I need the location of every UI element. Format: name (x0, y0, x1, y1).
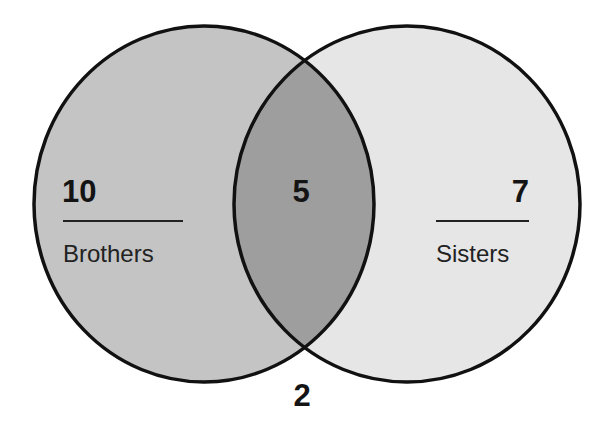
brothers-only-count: 10 (62, 174, 96, 209)
sisters-label: Sisters (436, 240, 509, 267)
outside-count: 2 (293, 378, 310, 413)
brothers-label: Brothers (63, 240, 154, 267)
venn-diagram: 10 Brothers 5 7 Sisters 2 (0, 0, 612, 431)
sisters-only-count: 7 (512, 174, 529, 209)
intersection-count: 5 (292, 174, 309, 209)
